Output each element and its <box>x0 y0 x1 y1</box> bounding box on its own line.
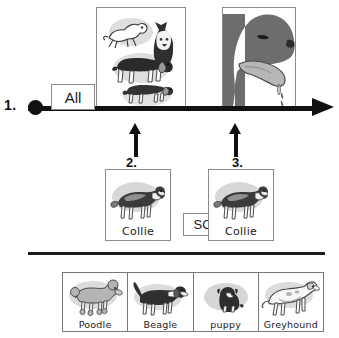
all-label-box: All <box>51 84 95 110</box>
up-arrow-3-icon <box>229 123 242 157</box>
assorted-dogs-panel <box>96 7 186 108</box>
timeline-arrowhead-icon <box>312 98 334 116</box>
dog-breed-strip: Poodle B <box>62 272 324 332</box>
collie-card-left: Collie <box>105 169 171 241</box>
collie-card-left-label: Collie <box>122 225 154 238</box>
strip-cell-greyhound: Greyhound <box>259 273 323 331</box>
salivating-dog-head-panel <box>222 7 296 108</box>
poodle-artwork <box>63 277 127 319</box>
strip-cell-beagle: Beagle <box>128 273 193 331</box>
strip-cell-poodle: Poodle <box>63 273 128 331</box>
up-arrow-2-icon <box>129 123 142 157</box>
assorted-dogs-artwork <box>97 8 186 108</box>
beagle-artwork <box>128 277 192 319</box>
step-3-label: 3. <box>232 155 243 170</box>
saliva-drops <box>281 92 283 107</box>
collie-card-right-label: Collie <box>225 225 257 238</box>
collie-artwork-right <box>211 177 271 225</box>
strip-label-beagle: Beagle <box>143 319 177 330</box>
strip-label-greyhound: Greyhound <box>264 319 318 330</box>
dog-head-artwork <box>223 8 296 108</box>
puppy-artwork <box>194 277 258 319</box>
section-divider <box>28 252 325 255</box>
collie-card-right: Collie <box>208 169 274 241</box>
all-label-text: All <box>65 89 82 106</box>
strip-label-puppy: puppy <box>210 319 241 330</box>
step-2-label: 2. <box>126 155 137 170</box>
step-1-label: 1. <box>4 97 17 113</box>
greyhound-artwork <box>259 277 323 319</box>
strip-label-poodle: Poodle <box>79 319 112 330</box>
strip-cell-puppy: puppy <box>194 273 259 331</box>
collie-artwork-left <box>108 177 168 225</box>
diagram-canvas: 1. All 2. 3. <box>0 0 339 338</box>
